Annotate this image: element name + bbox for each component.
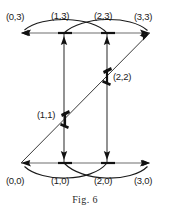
vertex-label-0-3: (0,3) — [6, 12, 24, 22]
vertex-label-2-3: (2,3) — [94, 11, 112, 21]
vertex-label-3-3: (3,3) — [134, 12, 152, 22]
vertex-label-1-1: (1,1) — [37, 110, 55, 120]
edge-diagonal-00-to-33 — [21, 36, 147, 164]
vertex-label-3-0: (3,0) — [134, 176, 152, 186]
figure-container: (0,3) (1,3) (2,3) (3,3) (2,2) (1,1) (0,0… — [0, 0, 170, 212]
vertex-label-1-0: (1,0) — [51, 176, 69, 186]
vertex-label-2-2: (2,2) — [113, 72, 131, 82]
vertex-label-2-0: (2,0) — [94, 176, 112, 186]
figure-caption: Fig. 6 — [0, 194, 170, 205]
edge-group-diagonal — [21, 33, 150, 163]
vertex-label-1-3: (1,3) — [51, 11, 69, 21]
vertex-label-0-0: (0,0) — [6, 176, 24, 186]
